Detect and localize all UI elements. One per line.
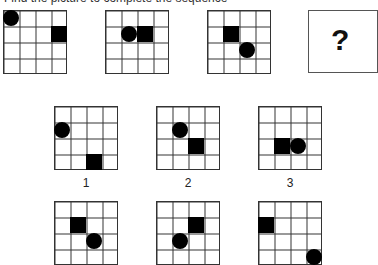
circle-icon [86,233,102,249]
option-grid-3[interactable] [258,106,322,170]
sequence-grid [207,10,271,74]
option-grid-6[interactable] [258,201,322,265]
square-icon [258,217,274,233]
square-icon [86,154,102,170]
square-icon [51,26,67,42]
option-label[interactable]: 1 [76,176,96,190]
circle-icon [172,122,188,138]
circle-icon [306,249,322,265]
option-grid-1[interactable] [54,106,118,170]
sequence-grid [105,10,169,74]
square-icon [137,26,153,42]
option-label[interactable]: 3 [280,176,300,190]
option-grid-2[interactable] [156,106,220,170]
sequence-grid [3,10,67,74]
circle-icon [239,42,255,58]
option-grid-5[interactable] [156,201,220,265]
circle-icon [54,122,70,138]
square-icon [274,138,290,154]
square-icon [70,217,86,233]
square-icon [188,217,204,233]
instruction-text: Find the picture to complete the sequenc… [4,0,227,5]
circle-icon [121,26,137,42]
circle-icon [3,10,19,26]
square-icon [223,26,239,42]
square-icon [188,138,204,154]
option-grid-4[interactable] [54,201,118,265]
option-label[interactable]: 2 [178,176,198,190]
circle-icon [172,233,188,249]
question-mark: ? [331,23,349,57]
question-box: ? [308,10,378,73]
circle-icon [290,138,306,154]
